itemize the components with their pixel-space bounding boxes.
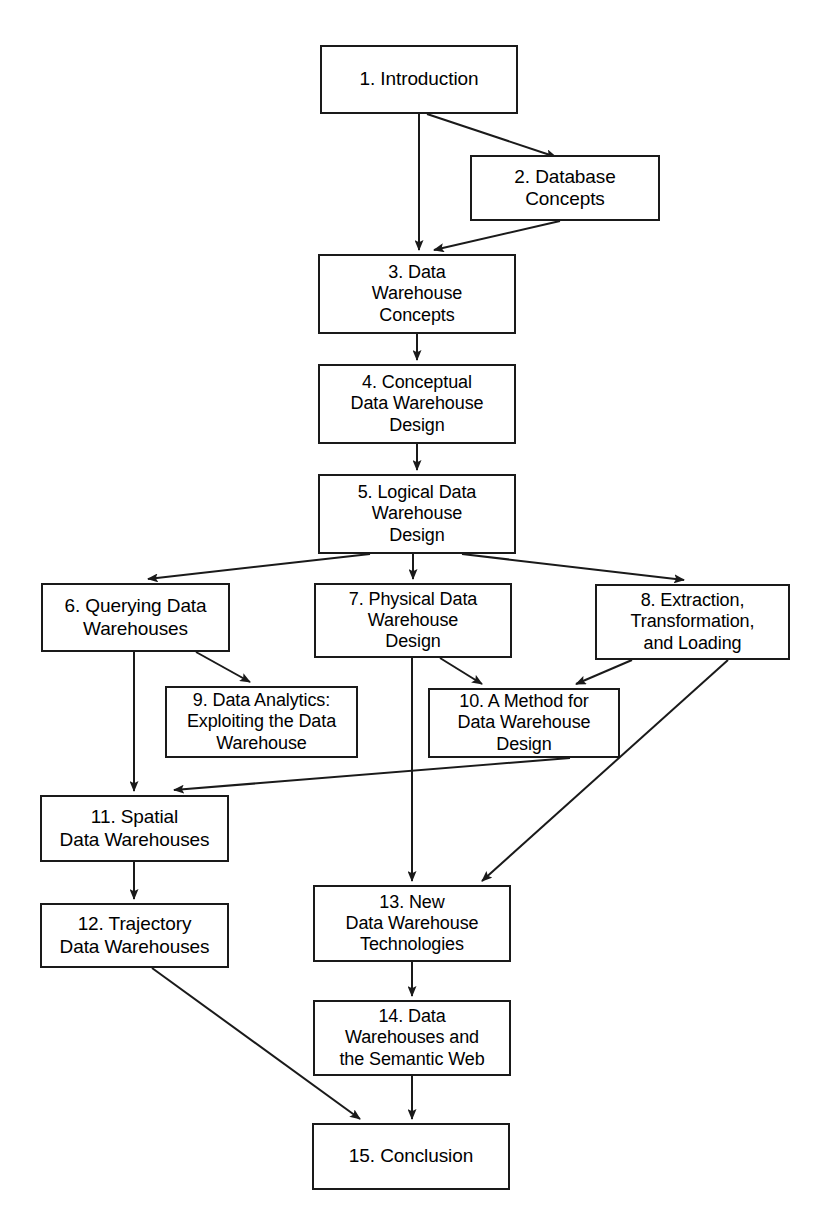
flowchart-node-n4[interactable]: 4. Conceptual Data Warehouse Design <box>318 364 516 444</box>
flowchart-node-label: 2. Database Concepts <box>511 166 618 210</box>
flowchart-node-n11[interactable]: 11. Spatial Data Warehouses <box>40 795 229 862</box>
flowchart-node-n9[interactable]: 9. Data Analytics: Exploiting the Data W… <box>165 686 358 758</box>
flowchart-edge-n1-to-n2 <box>427 114 556 157</box>
flowchart-edge-n5-to-n8 <box>462 554 684 580</box>
flowchart-node-n5[interactable]: 5. Logical Data Warehouse Design <box>318 474 516 554</box>
flowchart-edge-n6-to-n9 <box>196 652 250 682</box>
flowchart-node-n14[interactable]: 14. Data Warehouses and the Semantic Web <box>313 1000 511 1076</box>
flowchart-edge-n7-to-n10 <box>440 658 482 684</box>
flowchart-node-n15[interactable]: 15. Conclusion <box>312 1123 510 1190</box>
flowchart-diagram: 1. Introduction2. Database Concepts3. Da… <box>0 0 819 1227</box>
flowchart-node-n8[interactable]: 8. Extraction, Transformation, and Loadi… <box>595 584 790 660</box>
flowchart-node-n1[interactable]: 1. Introduction <box>320 45 518 114</box>
flowchart-node-label: 7. Physical Data Warehouse Design <box>346 589 480 652</box>
flowchart-node-n7[interactable]: 7. Physical Data Warehouse Design <box>314 583 512 658</box>
flowchart-edge-n10-to-n11 <box>174 758 570 790</box>
flowchart-node-n13[interactable]: 13. New Data Warehouse Technologies <box>313 885 511 962</box>
flowchart-node-label: 13. New Data Warehouse Technologies <box>342 892 481 955</box>
flowchart-node-label: 5. Logical Data Warehouse Design <box>355 482 480 545</box>
flowchart-node-label: 6. Querying Data Warehouses <box>61 595 209 639</box>
flowchart-node-label: 15. Conclusion <box>346 1145 476 1167</box>
flowchart-node-label: 8. Extraction, Transformation, and Loadi… <box>628 590 758 653</box>
flowchart-node-n6[interactable]: 6. Querying Data Warehouses <box>41 583 230 652</box>
flowchart-node-label: 3. Data Warehouse Concepts <box>369 262 465 325</box>
flowchart-node-label: 11. Spatial Data Warehouses <box>57 806 213 850</box>
flowchart-node-n10[interactable]: 10. A Method for Data Warehouse Design <box>428 688 620 758</box>
flowchart-edge-n2-to-n3 <box>434 221 560 250</box>
flowchart-edge-n5-to-n6 <box>148 554 370 579</box>
flowchart-node-label: 14. Data Warehouses and the Semantic Web <box>336 1006 487 1069</box>
flowchart-node-label: 1. Introduction <box>357 68 482 90</box>
flowchart-node-label: 12. Trajectory Data Warehouses <box>57 913 213 957</box>
flowchart-node-n12[interactable]: 12. Trajectory Data Warehouses <box>40 903 229 968</box>
flowchart-edge-n8-to-n10 <box>576 660 632 684</box>
flowchart-node-label: 10. A Method for Data Warehouse Design <box>454 691 593 754</box>
flowchart-node-label: 9. Data Analytics: Exploiting the Data W… <box>184 690 339 753</box>
flowchart-node-n2[interactable]: 2. Database Concepts <box>470 155 660 221</box>
flowchart-node-n3[interactable]: 3. Data Warehouse Concepts <box>318 254 516 334</box>
flowchart-node-label: 4. Conceptual Data Warehouse Design <box>347 372 486 435</box>
